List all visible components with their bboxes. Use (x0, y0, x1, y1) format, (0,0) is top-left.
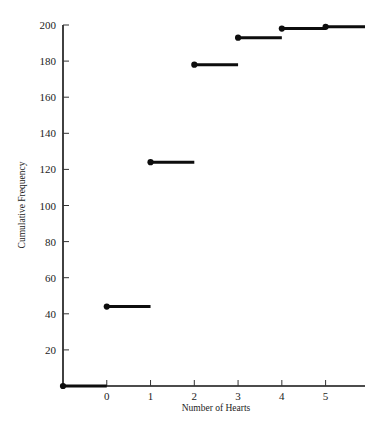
cumulative-frequency-figure: 20406080100120140160180200 Cumulative Fr… (0, 0, 389, 428)
step-point (235, 35, 241, 41)
y-tick-label-120: 120 (40, 163, 57, 175)
y-tick-label-140: 140 (40, 127, 57, 139)
x-tick-label-0: 0 (104, 390, 110, 402)
y-tick-label-160: 160 (40, 91, 57, 103)
step-point (104, 303, 110, 309)
step-point (279, 26, 285, 32)
x-tick-label-2: 2 (192, 390, 198, 402)
y-tick-label-60: 60 (45, 272, 57, 284)
y-tick-label-100: 100 (40, 200, 57, 212)
step-point (191, 62, 197, 68)
x-tick-label-1: 1 (148, 390, 154, 402)
x-tick-label-3: 3 (235, 390, 241, 402)
x-axis-ticks (107, 380, 326, 386)
y-axis-title: Cumulative Frequency (17, 161, 27, 248)
step-plot-canvas: 20406080100120140160180200 Cumulative Fr… (0, 0, 389, 428)
x-tick-label-4: 4 (279, 390, 285, 402)
x-axis-title: Number of Hearts (182, 403, 251, 413)
y-axis: 20406080100120140160180200 Cumulative Fr… (17, 19, 69, 386)
y-tick-label-40: 40 (45, 308, 57, 320)
x-tick-label-5: 5 (323, 390, 329, 402)
step-point (60, 383, 66, 389)
y-tick-label-20: 20 (45, 344, 57, 356)
x-axis-tick-labels: 012345 (104, 390, 329, 402)
y-tick-label-180: 180 (40, 55, 57, 67)
step-point (147, 159, 153, 165)
step-point (323, 24, 329, 30)
y-axis-tick-labels: 20406080100120140160180200 (40, 19, 57, 356)
step-series (60, 24, 365, 389)
y-axis-ticks (63, 25, 69, 350)
y-tick-label-200: 200 (40, 19, 57, 31)
y-tick-label-80: 80 (45, 236, 57, 248)
x-axis: 012345 Number of Hearts (63, 380, 365, 413)
